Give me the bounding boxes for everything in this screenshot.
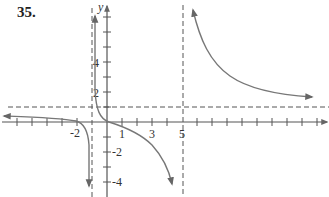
x-tick-label-3: 3 — [149, 127, 155, 141]
problem-number: 35. — [17, 4, 36, 21]
x-axis — [2, 118, 327, 126]
x-tick-label-5: 5 — [179, 127, 185, 141]
rational-function-plot: y -2 1 3 5 4 2 -2 -4 — [0, 0, 329, 197]
curve-right-branch — [193, 10, 312, 97]
y-axis-label: y — [97, 0, 104, 14]
x-tick-label-1: 1 — [119, 127, 125, 141]
y-axis — [103, 6, 111, 197]
y-tick-label-4: 4 — [93, 56, 99, 70]
x-tick-label-neg2: -2 — [70, 126, 80, 140]
graph-figure: 35. — [0, 0, 329, 197]
y-tick-label-neg4: -4 — [112, 175, 122, 189]
y-tick-label-neg2: -2 — [112, 145, 122, 159]
